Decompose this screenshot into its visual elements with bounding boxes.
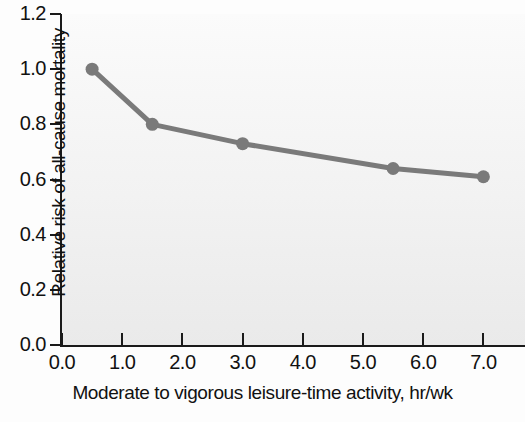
y-tick-mark xyxy=(50,344,61,346)
x-tick-mark xyxy=(362,333,364,346)
x-tick-label: 7.0 xyxy=(453,351,513,373)
x-tick-mark xyxy=(181,333,183,346)
chart-figure: 0.00.20.40.60.81.01.2 0.01.02.03.04.05.0… xyxy=(0,0,525,422)
y-tick-label: 0.8 xyxy=(0,113,46,133)
x-tick-mark xyxy=(121,333,123,346)
y-tick-label: 1.2 xyxy=(0,3,46,23)
x-tick-mark xyxy=(482,333,484,346)
x-axis-label: Moderate to vigorous leisure-time activi… xyxy=(0,382,525,403)
x-tick-label: 4.0 xyxy=(273,351,333,373)
y-tick-label: 0.4 xyxy=(0,224,46,244)
x-tick-mark xyxy=(242,333,244,346)
x-tick-label: 6.0 xyxy=(393,351,453,373)
plot-area xyxy=(62,14,525,345)
x-axis-line xyxy=(60,345,525,347)
y-axis-label: Relative risk of all-cause mortality xyxy=(48,0,69,333)
x-tick-label: 3.0 xyxy=(213,351,273,373)
x-tick-mark xyxy=(302,333,304,346)
y-tick-label: 1.0 xyxy=(0,58,46,78)
x-tick-mark xyxy=(61,333,63,346)
y-tick-label: 0.2 xyxy=(0,279,46,299)
y-tick-label: 0.6 xyxy=(0,169,46,189)
x-tick-label: 1.0 xyxy=(92,351,152,373)
x-tick-label: 5.0 xyxy=(333,351,393,373)
x-tick-label: 0.0 xyxy=(32,351,92,373)
x-tick-mark xyxy=(422,333,424,346)
x-tick-label: 2.0 xyxy=(152,351,212,373)
